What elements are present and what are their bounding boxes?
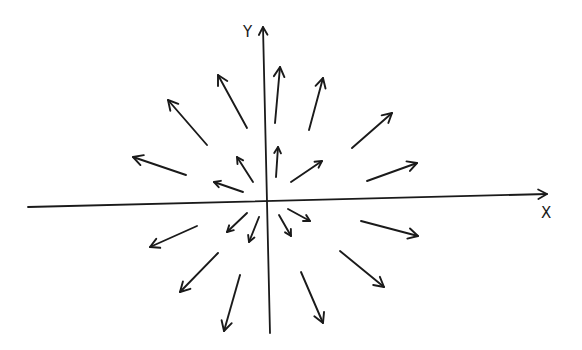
vector-arrow-upper-right	[274, 147, 281, 177]
arrow-shaft	[237, 157, 253, 182]
vector-arrow-lower-left	[150, 226, 197, 248]
y-axis-line	[263, 27, 270, 333]
vector-arrow-upper-right	[309, 78, 326, 130]
vector-arrow-upper-right	[291, 161, 322, 182]
vector-arrow-lower-left	[248, 217, 259, 242]
vector-arrow-lower-right	[279, 215, 291, 236]
vector-arrow-lower-right	[288, 209, 310, 221]
x-axis-line	[28, 194, 547, 207]
arrow-shaft	[150, 226, 197, 247]
vector-arrow-upper-right	[352, 113, 392, 148]
arrow-shaft	[218, 75, 247, 128]
arrow-shaft	[275, 67, 280, 123]
vector-arrow-upper-left	[133, 155, 186, 175]
axes	[28, 27, 547, 333]
arrow-shaft	[276, 147, 278, 177]
vector-arrow-upper-left	[214, 181, 243, 192]
vector-arrow-lower-right	[340, 251, 384, 287]
arrow-shaft	[301, 272, 323, 323]
vector-arrow-lower-left	[227, 213, 247, 232]
vector-arrow-upper-left	[218, 75, 247, 128]
arrow-shaft	[227, 213, 247, 232]
arrow-shaft	[180, 253, 218, 292]
vector-arrow-upper-right	[274, 67, 285, 123]
vector-arrow-upper-left	[237, 157, 253, 182]
arrow-shaft	[340, 251, 384, 287]
arrow-shaft	[367, 163, 417, 181]
vector-field-diagram: X Y	[0, 0, 582, 350]
vector-arrow-lower-left	[180, 253, 218, 292]
y-axis-label: Y	[242, 23, 253, 41]
arrow-shaft	[352, 113, 392, 148]
arrow-shaft	[291, 161, 322, 182]
vector-arrow-lower-right	[301, 272, 324, 323]
x-axis	[28, 189, 547, 207]
arrow-shaft	[168, 100, 207, 145]
vector-arrow-upper-right	[367, 161, 417, 181]
vector-arrow-upper-left	[168, 100, 207, 145]
y-axis	[259, 27, 270, 333]
vector-arrow-lower-left	[222, 275, 240, 331]
arrow-shaft	[133, 157, 186, 175]
x-axis-label: X	[541, 204, 551, 222]
vector-arrow-lower-right	[361, 221, 418, 239]
